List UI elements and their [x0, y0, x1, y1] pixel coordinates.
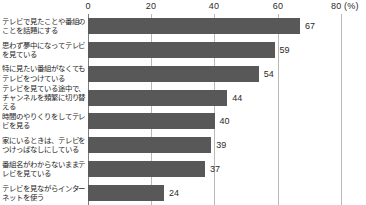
category-label: テレビを見ながらインターネットを使う: [2, 184, 86, 202]
bar-row: 番組名がわからないままテレビを見ている 37: [0, 157, 366, 181]
xtick-label-60: 60: [273, 1, 283, 11]
bar-chart: 0 20 40 60 80 (%) テレビで見たことや番組のことを話題にする 6…: [0, 0, 366, 205]
category-label: 時間のやりくりをしてテレビを見る: [2, 112, 86, 130]
bar-group: 40: [88, 110, 230, 134]
bar-row: 時間のやりくりをしてテレビを見る 40: [0, 110, 366, 134]
xtick-label-20: 20: [146, 1, 156, 11]
bar-value-label: 40: [220, 116, 230, 126]
bar-value-label: 54: [264, 69, 274, 79]
category-label: テレビで見たことや番組のことを話題にする: [2, 17, 86, 35]
bar-group: 39: [88, 133, 226, 157]
plot-area: テレビで見たことや番組のことを話題にする 67 思わず夢中になってテレビを見てい…: [0, 14, 366, 205]
bar: [88, 42, 275, 58]
bar: [88, 66, 259, 82]
bar: [88, 113, 215, 129]
category-label: 思わず夢中になってテレビを見ている: [2, 41, 86, 59]
category-label: 家にいるときは、テレビをつけっぱなしにしている: [2, 136, 86, 154]
xtick-label-80-percent: 80 (%): [331, 1, 359, 11]
bar: [88, 137, 211, 153]
bar-group: 54: [88, 62, 274, 86]
bar-row: 特に見たい番組がなくてもテレビをつけている 54: [0, 62, 366, 86]
category-label: 特に見たい番組がなくてもテレビをつけている: [2, 64, 86, 82]
bar-group: 37: [88, 157, 220, 181]
bar-row: 思わず夢中になってテレビを見ている 59: [0, 38, 366, 62]
xtick-label-0: 0: [85, 1, 90, 11]
category-label: 番組名がわからないままテレビを見ている: [2, 160, 86, 178]
category-label: テレビを見ている途中で、チャンネルを頻繁に切り替える: [2, 84, 86, 112]
xtick-label-40: 40: [209, 1, 219, 11]
bar: [88, 185, 164, 201]
bar-row: 家にいるときは、テレビをつけっぱなしにしている 39: [0, 133, 366, 157]
bar-row: テレビを見ている途中で、チャンネルを頻繁に切り替える 44: [0, 86, 366, 110]
bar-value-label: 59: [280, 45, 290, 55]
bar-row: テレビを見ながらインターネットを使う 24: [0, 181, 366, 205]
bar-value-label: 37: [210, 164, 220, 174]
bar-value-label: 24: [169, 188, 179, 198]
bar-group: 59: [88, 38, 290, 62]
bar-group: 67: [88, 14, 315, 38]
bar-group: 24: [88, 181, 179, 205]
bar-group: 44: [88, 86, 242, 110]
bar-value-label: 44: [232, 93, 242, 103]
bar: [88, 161, 205, 177]
bar: [88, 18, 300, 34]
bar-value-label: 67: [305, 21, 315, 31]
bar-value-label: 39: [216, 140, 226, 150]
bar: [88, 90, 227, 106]
bar-row: テレビで見たことや番組のことを話題にする 67: [0, 14, 366, 38]
